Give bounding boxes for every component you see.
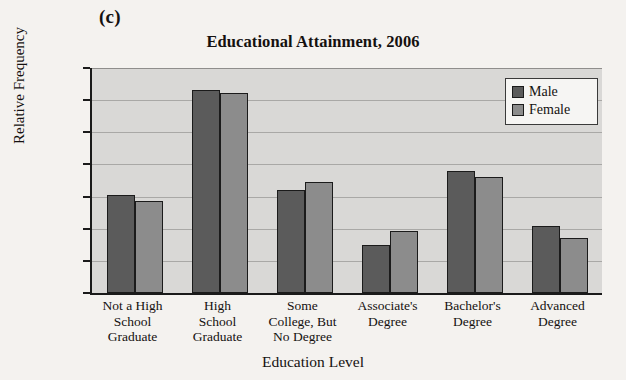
x-axis-category-label: Associate's Degree — [345, 298, 430, 329]
x-axis-category-label: Some College, But No Degree — [260, 298, 345, 345]
bar-female — [220, 93, 248, 293]
legend-item-female: Female — [512, 101, 591, 119]
bar-female — [560, 238, 588, 293]
legend: Male Female — [505, 78, 598, 125]
chart-figure: (c) Educational Attainment, 2006 Relativ… — [0, 0, 626, 380]
bar-female — [475, 177, 503, 293]
panel-letter: (c) — [99, 6, 121, 28]
x-axis-category-label: Advanced Degree — [515, 298, 600, 329]
gridline — [92, 68, 602, 69]
y-axis-tick-mark — [83, 196, 90, 198]
y-axis-tick-mark — [83, 163, 90, 165]
bar-female — [135, 201, 163, 293]
y-axis-tick-mark — [83, 67, 90, 69]
bar-male — [277, 190, 305, 294]
y-axis-tick-mark — [83, 99, 90, 101]
gridline — [92, 132, 602, 133]
bar-female — [390, 231, 418, 293]
x-axis-label: Education Level — [0, 353, 626, 371]
legend-swatch-male-icon — [512, 86, 524, 98]
y-axis-tick-mark — [83, 292, 90, 294]
x-axis-category-label: Not a High School Graduate — [90, 298, 175, 345]
bar-male — [192, 90, 220, 293]
bar-male — [447, 171, 475, 293]
legend-label-male: Male — [529, 85, 558, 99]
legend-label-female: Female — [529, 103, 570, 117]
chart-title: Educational Attainment, 2006 — [0, 32, 626, 52]
y-axis-label: Relative Frequency — [11, 0, 28, 206]
legend-swatch-female-icon — [512, 104, 524, 116]
x-axis-category-label: Bachelor's Degree — [430, 298, 515, 329]
bar-male — [107, 195, 135, 293]
gridline — [92, 197, 602, 198]
y-axis-tick-mark — [83, 131, 90, 133]
bar-male — [362, 245, 390, 293]
y-axis-tick-mark — [83, 260, 90, 262]
x-axis-category-label: High School Graduate — [175, 298, 260, 345]
legend-item-male: Male — [512, 83, 591, 101]
gridline — [92, 229, 602, 230]
gridline — [92, 164, 602, 165]
y-axis-tick-mark — [83, 228, 90, 230]
bar-male — [532, 226, 560, 294]
gridline — [92, 261, 602, 262]
bar-female — [305, 182, 333, 293]
